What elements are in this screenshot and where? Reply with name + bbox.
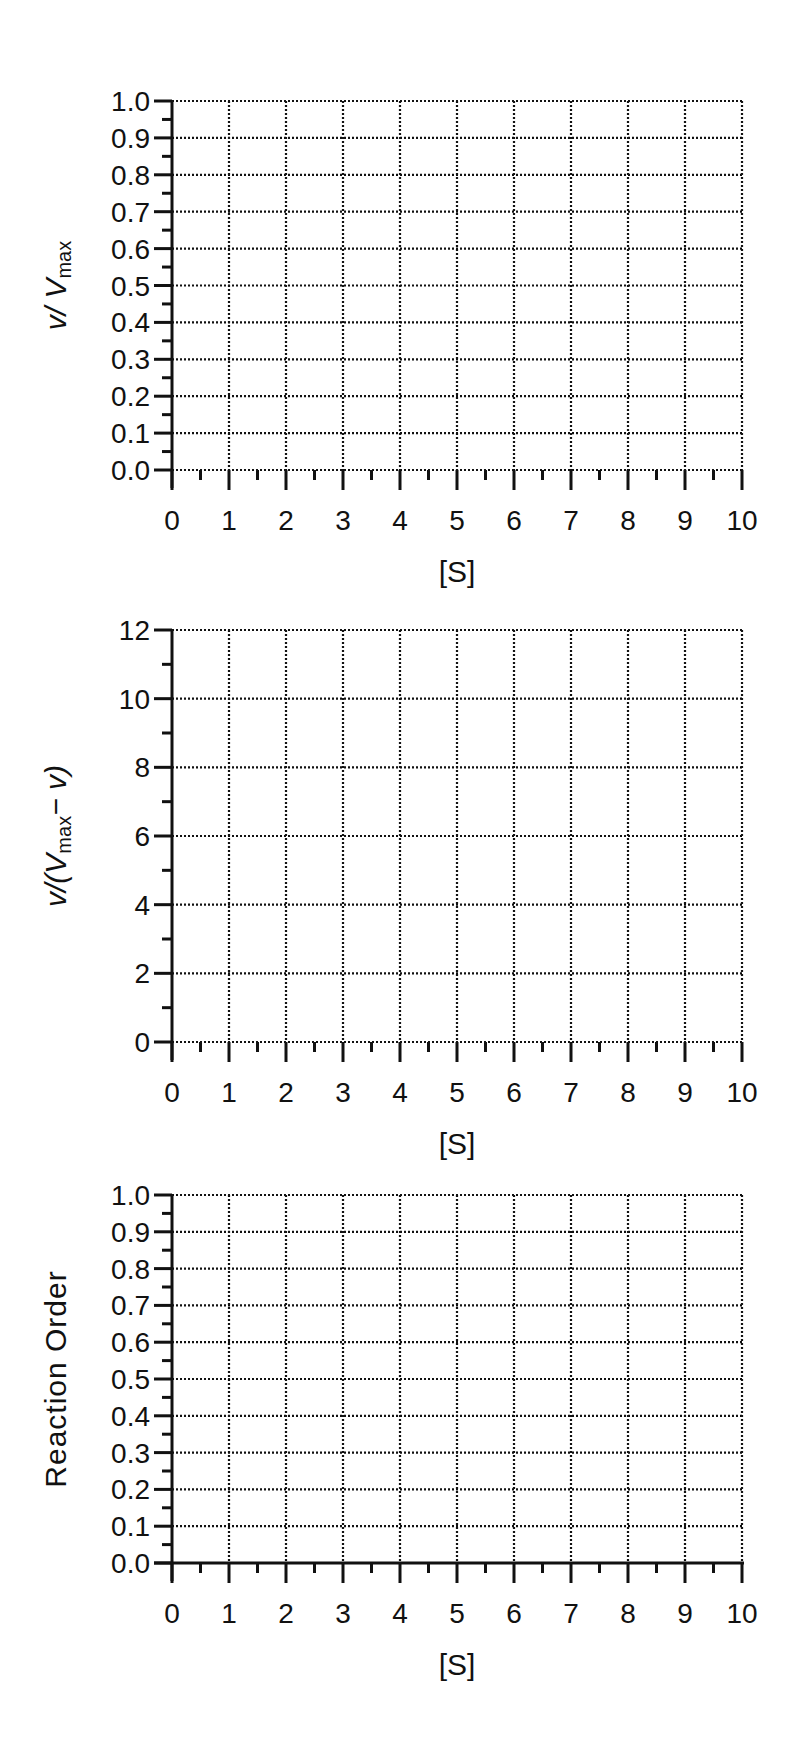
- x-tick-label: 8: [620, 1077, 636, 1108]
- y-tick-label: 0.5: [111, 271, 150, 302]
- y-tick-label: 2: [134, 958, 150, 989]
- x-tick-label: 4: [392, 1598, 408, 1629]
- x-tick-label: 10: [726, 505, 757, 536]
- y-tick-label: 12: [119, 615, 150, 646]
- y-tick-label: 10: [119, 684, 150, 715]
- x-tick-label: 6: [506, 505, 522, 536]
- x-axis-label: [S]: [439, 1648, 476, 1681]
- x-tick-label: 2: [278, 1598, 294, 1629]
- y-tick-label: 0.1: [111, 1511, 150, 1542]
- x-tick-label: 8: [620, 505, 636, 536]
- y-tick-label: 0.2: [111, 381, 150, 412]
- y-axis-label: v/(Vmax− v): [39, 765, 75, 907]
- y-tick-label: 0.1: [111, 418, 150, 449]
- y-tick-label: 4: [134, 890, 150, 921]
- x-tick-label: 7: [563, 1077, 579, 1108]
- y-tick-label: 0.4: [111, 307, 150, 338]
- x-tick-label: 5: [449, 1077, 465, 1108]
- x-axis-label: [S]: [439, 1127, 476, 1160]
- x-tick-label: 1: [221, 505, 237, 536]
- x-tick-label: 5: [449, 1598, 465, 1629]
- y-tick-label: 0.4: [111, 1401, 150, 1432]
- y-tick-label: 8: [134, 752, 150, 783]
- y-tick-label: 1.0: [111, 1180, 150, 1211]
- y-tick-label: 0.7: [111, 1290, 150, 1321]
- y-tick-label: 0.7: [111, 197, 150, 228]
- y-tick-label: 0.5: [111, 1364, 150, 1395]
- x-tick-label: 2: [278, 1077, 294, 1108]
- x-tick-label: 0: [164, 1077, 180, 1108]
- x-tick-label: 9: [677, 1077, 693, 1108]
- x-tick-label: 9: [677, 505, 693, 536]
- x-tick-label: 4: [392, 1077, 408, 1108]
- x-tick-label: 2: [278, 505, 294, 536]
- y-tick-label: 1.0: [111, 86, 150, 117]
- x-tick-label: 6: [506, 1077, 522, 1108]
- y-tick-label: 0.9: [111, 1217, 150, 1248]
- y-tick-label: 0.0: [111, 1548, 150, 1579]
- x-tick-label: 6: [506, 1598, 522, 1629]
- y-tick-label: 0.3: [111, 1438, 150, 1469]
- x-tick-label: 9: [677, 1598, 693, 1629]
- x-tick-label: 5: [449, 505, 465, 536]
- y-tick-label: 0: [134, 1027, 150, 1058]
- chart-1: 0.00.10.20.30.40.50.60.70.80.91.00123456…: [39, 86, 758, 588]
- x-tick-label: 1: [221, 1598, 237, 1629]
- x-tick-label: 3: [335, 505, 351, 536]
- y-axis-label: v/ Vmax: [39, 241, 75, 330]
- x-tick-label: 10: [726, 1077, 757, 1108]
- y-tick-label: 0.2: [111, 1474, 150, 1505]
- y-tick-label: 0.3: [111, 344, 150, 375]
- y-axis-label: Reaction Order: [39, 1270, 72, 1487]
- y-tick-label: 0.0: [111, 455, 150, 486]
- y-tick-label: 0.8: [111, 1254, 150, 1285]
- y-tick-label: 0.8: [111, 160, 150, 191]
- x-tick-label: 10: [726, 1598, 757, 1629]
- y-tick-label: 6: [134, 821, 150, 852]
- x-axis-label: [S]: [439, 555, 476, 588]
- x-tick-label: 4: [392, 505, 408, 536]
- x-tick-label: 0: [164, 505, 180, 536]
- y-tick-label: 0.9: [111, 123, 150, 154]
- x-tick-label: 1: [221, 1077, 237, 1108]
- x-tick-label: 8: [620, 1598, 636, 1629]
- chart-3: 0.00.10.20.30.40.50.60.70.80.91.00123456…: [39, 1180, 758, 1681]
- y-tick-label: 0.6: [111, 234, 150, 265]
- x-tick-label: 3: [335, 1077, 351, 1108]
- x-tick-label: 0: [164, 1598, 180, 1629]
- x-tick-label: 7: [563, 1598, 579, 1629]
- chart-2: 024681012012345678910[S]v/(Vmax− v): [39, 615, 758, 1160]
- x-tick-label: 3: [335, 1598, 351, 1629]
- chart-canvas: 0.00.10.20.30.40.50.60.70.80.91.00123456…: [0, 0, 806, 1759]
- x-tick-label: 7: [563, 505, 579, 536]
- y-tick-label: 0.6: [111, 1327, 150, 1358]
